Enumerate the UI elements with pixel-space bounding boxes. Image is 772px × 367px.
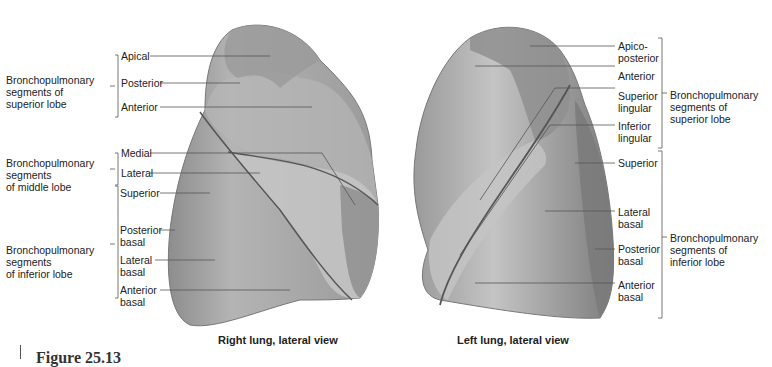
label-superior-lingular: Superior lingular [618,90,658,114]
label-apicoposterior: Apico- posterior [618,40,659,64]
label-line: basal [120,266,152,278]
label-line: Anterior [120,284,157,296]
group-line: superior lobe [6,98,94,110]
group-line: Bronchopulmonary [6,157,94,169]
figure-rule [20,345,21,359]
group-line: segments [6,256,94,268]
label-line: basal [120,236,162,248]
left-inferior-lobe-group: Bronchopulmonary segments of inferior lo… [670,232,758,268]
label-posterior-basal: Posterior basal [120,224,162,248]
left-lung [414,27,614,318]
group-line: segments of [6,86,94,98]
figure-number: Figure 25.13 [36,349,121,367]
label-medial: Medial [121,147,152,159]
group-line: Bronchopulmonary [670,89,758,101]
group-line: Bronchopulmonary [6,244,94,256]
label-lateral-basal: Lateral basal [618,206,650,230]
label-line: basal [618,218,650,230]
group-line: segments of [670,244,758,256]
label-line: posterior [618,52,659,64]
label-line: Lateral [120,254,152,266]
left-superior-lobe-group: Bronchopulmonary segments of superior lo… [670,89,758,125]
right-lung [168,25,378,326]
label-superior: Superior [618,157,658,169]
label-line: basal [120,296,157,308]
label-anterior-basal: Anterior basal [120,284,157,308]
group-line: segments [6,169,94,181]
left-lung-caption: Left lung, lateral view [457,334,569,346]
label-posterior-basal: Posterior basal [618,243,660,267]
label-line: Apico- [618,40,659,52]
label-superior: Superior [120,187,160,199]
right-lung-caption: Right lung, lateral view [218,334,338,346]
group-line: Bronchopulmonary [6,74,94,86]
label-line: Inferior [618,120,652,132]
label-apical: Apical [121,50,150,62]
right-superior-lobe-group: Bronchopulmonary segments of superior lo… [6,74,94,110]
label-line: Anterior [618,279,655,291]
group-line: inferior lobe [670,256,758,268]
group-line: segments of [670,101,758,113]
label-line: lingular [618,132,652,144]
label-line: Lateral [618,206,650,218]
label-line: Posterior [120,224,162,236]
label-inferior-lingular: Inferior lingular [618,120,652,144]
group-line: Bronchopulmonary [670,232,758,244]
label-line: Superior [618,90,658,102]
label-anterior: Anterior [121,101,158,113]
label-line: lingular [618,102,658,114]
right-middle-lobe-group: Bronchopulmonary segments of middle lobe [6,157,94,193]
group-line: superior lobe [670,113,758,125]
label-line: basal [618,255,660,267]
label-line: Posterior [618,243,660,255]
label-anterior: Anterior [618,70,655,82]
right-inferior-lobe-group: Bronchopulmonary segments of inferior lo… [6,244,94,280]
group-line: of inferior lobe [6,268,94,280]
label-lateral: Lateral [121,167,153,179]
label-posterior: Posterior [121,77,163,89]
label-anterior-basal: Anterior basal [618,279,655,303]
label-lateral-basal: Lateral basal [120,254,152,278]
label-line: basal [618,291,655,303]
group-line: of middle lobe [6,181,94,193]
